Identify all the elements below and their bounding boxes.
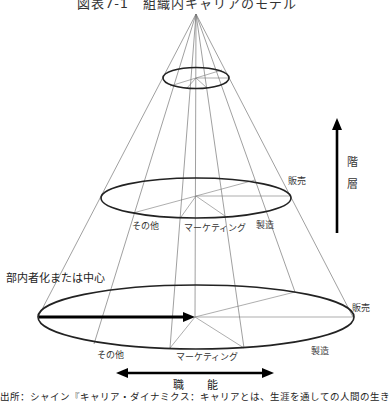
middle-label-marketing: マーケティング: [184, 221, 246, 234]
bottom-label-sales: 販売: [352, 301, 370, 314]
source-note: 出所：シャイン『キャリア・ダイナミクス：キャリアとは、生涯を通しての人間の生き: [0, 389, 374, 402]
middle-label-other: その他: [132, 219, 159, 232]
middle-ring: [101, 178, 291, 218]
bottom-label-manufacturing: 製造: [311, 344, 329, 357]
bottom-label-other: その他: [97, 348, 124, 361]
hierarchy-label: 階 層: [346, 152, 358, 196]
centrality-label: 部内者化または中心: [6, 269, 105, 285]
bottom-label-marketing: マーケティング: [176, 350, 238, 363]
middle-label-sales: 販売: [288, 174, 306, 187]
middle-label-manufacturing: 製造: [256, 218, 274, 231]
centrality-arrow: [39, 312, 195, 322]
hierarchy-arrow: [332, 118, 342, 233]
